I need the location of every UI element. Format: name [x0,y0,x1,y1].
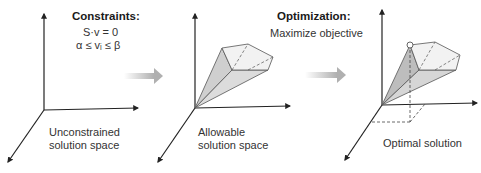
caption-unconstrained-line1: Unconstrained [49,126,120,139]
constraint-equation-2: α ≤ vᵢ ≤ β [76,39,120,52]
polytope-icon [370,42,460,122]
constraint-equation-1: S·v = 0 [83,26,118,39]
caption-allowable-line2: solution space [198,139,268,152]
polytope-icon [195,44,273,108]
transition-arrow-icon [305,67,346,83]
optimization-title: Optimization: [277,10,350,23]
constraints-title: Constraints: [72,10,140,23]
caption-unconstrained-line2: solution space [49,139,119,152]
transition-arrow-icon [124,68,163,84]
caption-allowable-line1: Allowable [198,126,245,139]
optimization-subtitle: Maximize objective [270,27,363,40]
optimal-point-icon [407,42,413,48]
caption-optimal: Optimal solution [383,137,462,150]
